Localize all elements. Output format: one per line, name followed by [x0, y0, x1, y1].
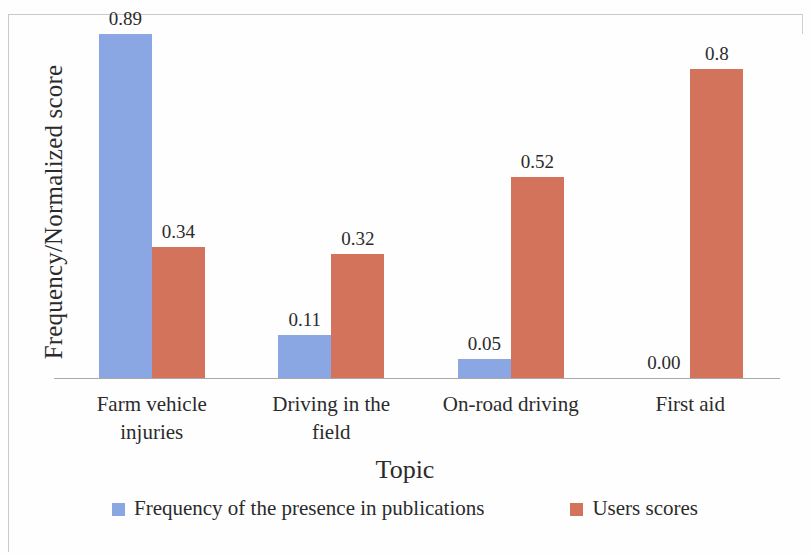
bar [511, 177, 564, 378]
legend-item-label: Users scores [592, 496, 698, 521]
bar [690, 69, 743, 378]
bar-value-label: 0.52 [521, 151, 554, 173]
plot-area: 0.890.340.110.320.050.520.000.8 [62, 30, 780, 379]
x-axis-title: Topic [0, 455, 810, 485]
legend-item: Frequency of the presence in publication… [112, 496, 484, 521]
x-axis-category-label: First aid [590, 390, 790, 418]
x-axis-line [62, 378, 780, 379]
bar [152, 247, 205, 378]
bar [278, 335, 331, 378]
bar-chart-figure: Frequency/Normalized score 0.890.340.110… [0, 0, 810, 555]
x-axis-category-label: On-road driving [411, 390, 611, 418]
bar-value-label: 0.8 [705, 43, 729, 65]
bar-value-label: 0.32 [341, 228, 374, 250]
bar-value-label: 0.05 [468, 333, 501, 355]
chart-legend: Frequency of the presence in publication… [0, 496, 810, 521]
bar-value-label: 0.34 [162, 221, 195, 243]
bar [99, 34, 152, 378]
bar-value-label: 0.89 [109, 8, 142, 30]
x-axis-category-label: Farm vehicleinjuries [52, 390, 252, 446]
x-axis-category-label: Driving in thefield [231, 390, 431, 446]
bar [458, 359, 511, 378]
figure-frame-right-border [802, 14, 803, 34]
legend-item: Users scores [570, 496, 698, 521]
legend-item-label: Frequency of the presence in publication… [134, 496, 484, 521]
legend-swatch-icon [570, 503, 583, 516]
bar [331, 254, 384, 378]
bar-value-label: 0.00 [647, 352, 680, 374]
legend-swatch-icon [112, 503, 125, 516]
bar-value-label: 0.11 [288, 309, 321, 331]
y-axis-tick [54, 378, 62, 379]
